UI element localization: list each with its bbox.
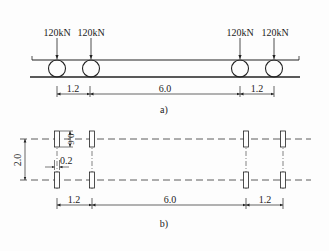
- load-label-2: 120kN: [77, 27, 104, 38]
- wheel-icon: [49, 60, 66, 77]
- wheel-icon: [266, 60, 283, 77]
- dim-b-3: 1.2: [259, 194, 272, 205]
- pad-icon: [244, 131, 249, 147]
- part-a-vehicle-elevation: 120kN 120kN 120kN 120kN: [30, 27, 300, 116]
- pad-icon: [55, 131, 60, 147]
- pad-icon: [244, 172, 249, 188]
- dim-track-width-label: 2.0: [12, 154, 23, 167]
- dim-pad-length-label: 0.6: [66, 133, 76, 145]
- wheel-icon: [83, 60, 100, 77]
- caption-a: a): [160, 104, 168, 116]
- part-b-wheel-plan: 0.6 0.2 2.0 1.2 6.0 1.2 b): [12, 131, 311, 230]
- load-diagram: 120kN 120kN 120kN 120kN: [0, 0, 329, 251]
- load-label-3: 120kN: [226, 27, 253, 38]
- pad-icon: [90, 131, 95, 147]
- caption-b: b): [160, 218, 168, 230]
- dim-a-3: 1.2: [251, 83, 264, 94]
- wheel-contact-pads: [55, 131, 286, 188]
- pad-icon: [281, 131, 286, 147]
- dim-b-1: 1.2: [68, 194, 81, 205]
- vehicle-body: [30, 56, 300, 77]
- dim-a-2: 6.0: [159, 83, 172, 94]
- pad-icon: [281, 172, 286, 188]
- wheel-icon: [232, 60, 249, 77]
- pad-icon: [90, 172, 95, 188]
- load-label-1: 120kN: [43, 27, 70, 38]
- pad-icon: [55, 172, 60, 188]
- load-label-4: 120kN: [261, 27, 288, 38]
- dim-a-1: 1.2: [67, 83, 80, 94]
- dim-pad-width-label: 0.2: [60, 155, 73, 166]
- dim-b-2: 6.0: [164, 194, 177, 205]
- load-arrows: [57, 38, 274, 59]
